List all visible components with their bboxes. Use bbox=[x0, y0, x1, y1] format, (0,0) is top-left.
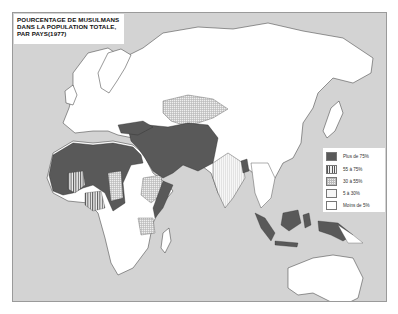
title-line-1: POURCENTAGE DE MUSULMANS bbox=[17, 16, 121, 23]
legend-label: 5 à 30% bbox=[343, 191, 360, 196]
japan bbox=[323, 101, 343, 138]
title-line-3: PAR PAYS(1977) bbox=[17, 30, 121, 37]
india bbox=[213, 153, 245, 208]
swatch-grid-icon bbox=[326, 177, 337, 186]
title-line-2: DANS LA POPULATION TOTALE, bbox=[17, 23, 121, 30]
map-frame: POURCENTAGE DE MUSULMANS DANS LA POPULAT… bbox=[12, 12, 387, 302]
borneo bbox=[281, 210, 301, 231]
legend-label: Moins de 5% bbox=[343, 203, 370, 208]
legend-label: 55 à 75% bbox=[343, 167, 362, 172]
swatch-stripes-icon bbox=[326, 165, 337, 174]
swatch-light-icon bbox=[326, 189, 337, 198]
legend-item-under-5: Moins de 5% bbox=[326, 200, 382, 212]
map-title: POURCENTAGE DE MUSULMANS DANS LA POPULAT… bbox=[14, 14, 124, 44]
swatch-white-icon bbox=[326, 201, 337, 210]
sulawesi bbox=[303, 213, 311, 228]
java bbox=[275, 241, 298, 247]
australia bbox=[288, 255, 363, 302]
legend-item-5-30: 5 à 30% bbox=[326, 188, 382, 200]
legend-item-plus-75: Plus de 75% bbox=[326, 151, 382, 163]
tanzania-grid bbox=[138, 218, 155, 235]
legend-item-55-75: 55 à 75% bbox=[326, 163, 382, 175]
legend: Plus de 75% 55 à 75% 30 à 55% 5 à 30% Mo… bbox=[323, 148, 385, 212]
madagascar bbox=[161, 228, 171, 253]
swatch-dark-icon bbox=[326, 152, 337, 161]
sumatra bbox=[255, 213, 275, 241]
legend-label: 30 à 55% bbox=[343, 179, 362, 184]
legend-label: Plus de 75% bbox=[343, 154, 369, 159]
legend-item-30-55: 30 à 55% bbox=[326, 176, 382, 188]
